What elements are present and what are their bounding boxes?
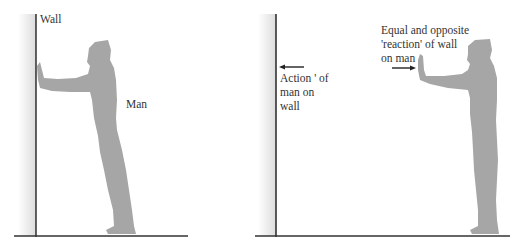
man-silhouette-standing [418,39,499,234]
man-silhouette-leaning [37,40,136,234]
left-panel [14,14,188,237]
wall-shading [18,14,36,236]
reaction-label-line: 'reaction' of wall [381,37,469,51]
action-label: Action ' of man on wall [280,71,329,113]
reaction-label-line: on man [381,51,469,65]
action-label-line: wall [280,99,329,113]
action-label-line: Action ' of [280,71,329,85]
reaction-arrow [392,66,416,71]
reaction-label: Equal and opposite 'reaction' of wall on… [381,23,469,65]
reaction-label-line: Equal and opposite [381,23,469,37]
man-label: Man [126,97,147,111]
action-label-line: man on [280,85,329,99]
wall-shading [258,14,276,236]
action-arrow [279,65,304,70]
wall-label: Wall [40,12,61,26]
